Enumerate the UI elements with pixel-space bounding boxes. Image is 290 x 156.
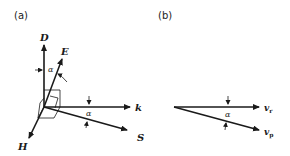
alpha-DE: α	[48, 65, 54, 74]
label-D: D	[39, 32, 49, 43]
vector-vp	[174, 107, 259, 130]
label-vp: vp	[264, 127, 273, 139]
panel-b: (b) vr vp α	[158, 10, 273, 139]
angle-arrow-E	[58, 74, 67, 82]
panel-a-label: (a)	[14, 10, 28, 21]
panel-a: (a) D E k S H α α	[14, 10, 144, 152]
diagram-canvas: (a) D E k S H α α (b) vr	[0, 0, 290, 156]
alpha-kS: α	[86, 109, 92, 118]
angle-arrow-S	[86, 122, 87, 128]
label-E: E	[60, 46, 69, 57]
label-H: H	[17, 141, 28, 152]
label-vr: vr	[264, 103, 273, 114]
angle-arrow-vp	[225, 123, 226, 130]
label-k: k	[135, 102, 142, 113]
alpha-b: α	[225, 110, 231, 119]
panel-b-label: (b)	[158, 10, 172, 21]
label-S: S	[137, 132, 144, 143]
